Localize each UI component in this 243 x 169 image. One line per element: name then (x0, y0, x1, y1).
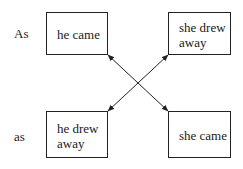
crossing-arrows (0, 0, 243, 169)
